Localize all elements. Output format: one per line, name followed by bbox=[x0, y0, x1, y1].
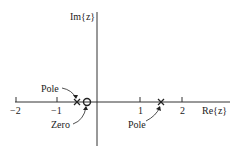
arrowhead-icon bbox=[73, 95, 78, 99]
zero-label: Zero bbox=[51, 119, 70, 130]
pole-right-label: Pole bbox=[128, 119, 146, 130]
pole-left-arrow bbox=[62, 88, 76, 98]
arrowhead-icon bbox=[83, 106, 88, 110]
real-axis-label: Re{z} bbox=[202, 105, 227, 116]
pole-zero-diagram: −2 −1 1 2 Im{z} Re{z} Pole Zero Pole bbox=[0, 0, 241, 152]
tick-label-2: 2 bbox=[180, 105, 185, 116]
tick-label-m1: −1 bbox=[51, 105, 62, 116]
pole-left-label: Pole bbox=[41, 83, 59, 94]
tick-label-m2: −2 bbox=[10, 105, 21, 116]
tick-label-1: 1 bbox=[138, 105, 143, 116]
imag-axis-label: Im{z} bbox=[70, 11, 95, 22]
